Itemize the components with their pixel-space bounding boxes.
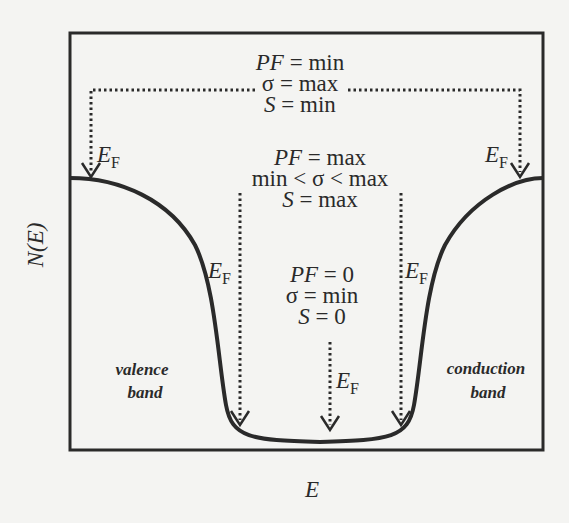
y-axis-label: N(E) [23, 223, 48, 269]
fermi-label-left-inner: EF [207, 258, 231, 287]
arrowhead-right-outer [511, 163, 529, 177]
conduction-band-label: conduction [447, 359, 525, 378]
bottom-s-label: S = 0 [298, 304, 345, 329]
fermi-label-center: EF [335, 368, 359, 397]
fermi-label-right-outer: EF [484, 142, 508, 171]
fermi-label-right-inner: EF [404, 258, 428, 287]
middle-s-label: S = max [282, 187, 358, 212]
valence-band-label-2: band [128, 383, 163, 402]
conduction-band-label-2: band [471, 383, 506, 402]
density-of-states-diagram: PF = min σ = max S = min PF = max min < … [0, 0, 569, 523]
top-s-label: S = min [264, 92, 336, 117]
arrowhead-center [321, 416, 339, 430]
x-axis-label: E [304, 477, 319, 502]
valence-band-label: valence [116, 360, 169, 379]
fermi-label-left-outer: EF [96, 142, 120, 171]
